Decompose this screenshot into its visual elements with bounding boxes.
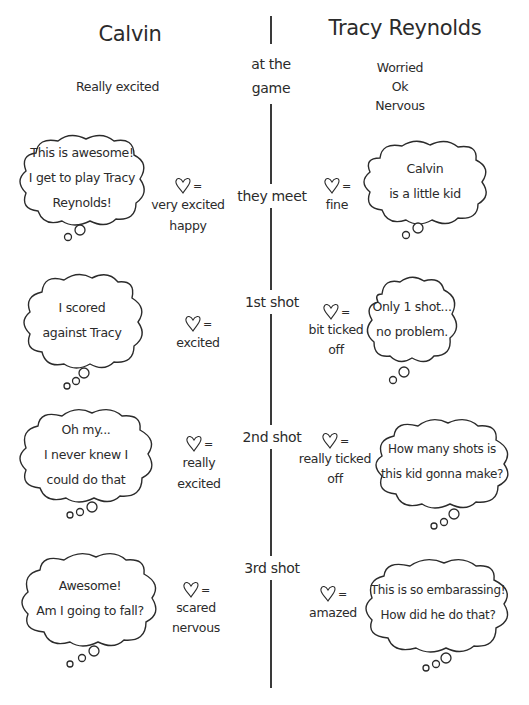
thought-line: I scored bbox=[59, 295, 106, 320]
heart-outline-icon bbox=[321, 431, 339, 449]
thought-line: I never knew I bbox=[44, 442, 128, 467]
emotion-word: excited bbox=[170, 332, 226, 353]
heart-outline-icon bbox=[322, 302, 340, 320]
thought-line: is a little kid bbox=[389, 181, 461, 206]
tracy-heart-meet: = fine bbox=[315, 170, 359, 215]
equals-sign: = bbox=[193, 180, 202, 194]
calvin-heart-1st-shot: = excited bbox=[170, 308, 226, 353]
heart-outline-icon bbox=[319, 584, 337, 602]
emotion-word: off bbox=[300, 340, 372, 360]
thought-text: This is so embarassing! How did he do th… bbox=[362, 558, 514, 648]
calvin-heart-2nd-shot: = really excited bbox=[174, 428, 224, 494]
thought-line: against Tracy bbox=[42, 320, 121, 345]
equals-sign: = bbox=[340, 435, 349, 449]
thought-line: could do that bbox=[47, 467, 126, 492]
thought-text: Calvin is a little kid bbox=[360, 140, 490, 222]
heart-outline-icon bbox=[185, 434, 203, 452]
tracy-heart-2nd-shot: = really ticked off bbox=[296, 425, 374, 489]
timeline-line-top bbox=[270, 16, 272, 44]
thought-text: Awesome! Am I going to fall? bbox=[18, 552, 162, 644]
emotion-word: scared bbox=[168, 598, 224, 618]
thought-line: This is so embarassing! bbox=[371, 578, 505, 603]
equals-sign: = bbox=[201, 584, 210, 598]
thought-text: How many shots is this kid gonna make? bbox=[372, 418, 512, 506]
stage-label-line: 1st shot bbox=[240, 290, 304, 314]
stage-label-line: at the bbox=[236, 52, 306, 76]
tracy-feeling: Nervous bbox=[355, 96, 445, 115]
stage-label-1st-shot: 1st shot bbox=[240, 290, 304, 314]
thought-line: Oh my... bbox=[61, 417, 110, 442]
heart-outline-icon bbox=[323, 176, 341, 194]
thought-text: Oh my... I never knew I could do that bbox=[16, 408, 156, 500]
equals-sign: = bbox=[338, 588, 347, 602]
tracy-feeling: Worried bbox=[355, 58, 445, 77]
emotion-word: fine bbox=[315, 194, 359, 215]
emotion-word: bit ticked bbox=[300, 320, 372, 340]
equals-sign: = bbox=[204, 438, 213, 452]
heart-outline-icon bbox=[174, 176, 192, 194]
tracy-feeling: Ok bbox=[355, 77, 445, 96]
tracy-heart-3rd-shot: = amazed bbox=[306, 578, 360, 623]
tracy-thought-bubble-2nd-shot: How many shots is this kid gonna make? bbox=[372, 418, 512, 506]
emotion-word: happy bbox=[148, 215, 228, 236]
thought-line: Calvin bbox=[407, 156, 444, 181]
tracy-thought-bubble-meet: Calvin is a little kid bbox=[360, 140, 490, 220]
emotion-word: excited bbox=[174, 473, 224, 494]
heart-outline-icon bbox=[182, 580, 200, 598]
stage-label-line: 3rd shot bbox=[238, 556, 306, 580]
stage-label-they-meet: they meet bbox=[234, 184, 310, 208]
thought-text: I scored against Tracy bbox=[20, 272, 144, 368]
thought-line: Only 1 shot... bbox=[372, 294, 451, 319]
column-title-calvin: Calvin bbox=[60, 22, 200, 46]
calvin-feeling-at-game: Really excited bbox=[60, 76, 175, 98]
calvin-thought-bubble-meet: This is awesome! I get to play Tracy Rey… bbox=[16, 133, 148, 221]
emotion-word: amazed bbox=[306, 602, 360, 623]
emotion-word: really ticked bbox=[296, 449, 374, 469]
thought-line: this kid gonna make? bbox=[381, 462, 503, 487]
thought-line: I get to play Tracy bbox=[29, 165, 135, 190]
thought-text: Only 1 shot... no problem. bbox=[366, 276, 458, 362]
calvin-thought-bubble-3rd-shot: Awesome! Am I going to fall? bbox=[18, 552, 162, 644]
calvin-heart-meet: = very excited happy bbox=[148, 170, 228, 236]
thought-line: This is awesome! bbox=[30, 140, 133, 165]
thought-line: How many shots is bbox=[388, 437, 496, 462]
stage-label-line: game bbox=[236, 76, 306, 100]
tracy-heart-1st-shot: = bit ticked off bbox=[300, 296, 372, 360]
equals-sign: = bbox=[342, 180, 351, 194]
stage-label-at-the-game: at the game bbox=[236, 52, 306, 100]
thought-line: How did he do that? bbox=[381, 603, 496, 628]
calvin-thought-bubble-2nd-shot: Oh my... I never knew I could do that bbox=[16, 408, 156, 500]
thought-line: Awesome! bbox=[59, 573, 122, 598]
calvin-thought-bubble-1st-shot: I scored against Tracy bbox=[20, 272, 144, 364]
thought-text: This is awesome! I get to play Tracy Rey… bbox=[16, 133, 148, 221]
equals-sign: = bbox=[341, 306, 350, 320]
tracy-feelings-at-game: Worried Ok Nervous bbox=[355, 58, 445, 115]
calvin-heart-3rd-shot: = scared nervous bbox=[168, 574, 224, 638]
stage-label-3rd-shot: 3rd shot bbox=[238, 556, 306, 580]
thought-line: no problem. bbox=[376, 319, 448, 344]
emotion-word: really bbox=[174, 452, 224, 473]
thought-line: Am I going to fall? bbox=[36, 598, 144, 623]
heart-outline-icon bbox=[184, 314, 202, 332]
stage-label-line: they meet bbox=[234, 184, 310, 208]
tracy-thought-bubble-3rd-shot: This is so embarassing! How did he do th… bbox=[362, 558, 514, 648]
tracy-thought-bubble-1st-shot: Only 1 shot... no problem. bbox=[366, 276, 458, 362]
column-title-tracy: Tracy Reynolds bbox=[320, 16, 490, 40]
equals-sign: = bbox=[203, 318, 212, 332]
emotion-word: nervous bbox=[168, 618, 224, 638]
emotion-word: very excited bbox=[148, 194, 228, 215]
emotion-word: off bbox=[296, 469, 374, 489]
thought-line: Reynolds! bbox=[52, 190, 111, 215]
